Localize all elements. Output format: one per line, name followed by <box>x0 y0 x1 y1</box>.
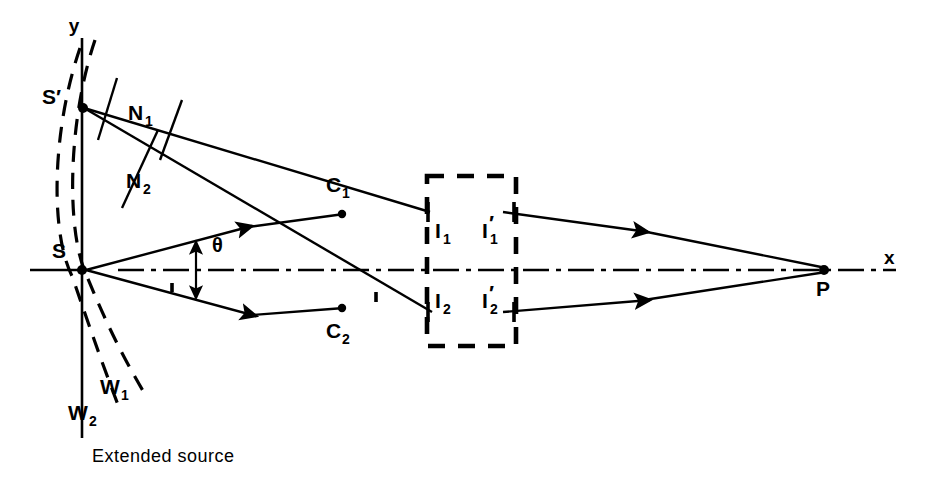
ray-sprime-to-i2 <box>84 108 432 312</box>
label-i1: I 1 <box>435 219 451 247</box>
optical-system-box <box>427 176 516 346</box>
ray-i1prime-to-p-seg1 <box>503 212 648 232</box>
label-c1-base: C <box>326 173 341 196</box>
label-n1-subscript: 1 <box>145 113 153 129</box>
label-i2-subscript: 2 <box>443 301 451 317</box>
label-c1-subscript: 1 <box>342 185 350 201</box>
ray-s-to-c2-seg2 <box>252 308 344 315</box>
label-i1-base: I <box>435 219 441 242</box>
label-i1-prime-base: I <box>482 219 488 242</box>
label-w2-base: W <box>68 401 88 424</box>
label-i2-prime-base: I <box>482 289 488 312</box>
ray-diagram-svg: y x S′ S N 1 N 2 θ C 1 C 2 I <box>0 0 935 494</box>
rays-from-s-prime <box>84 108 432 312</box>
normal-line-n1-outer <box>160 100 182 160</box>
label-c2: C 2 <box>326 319 350 347</box>
ray-i1prime-to-p-seg2 <box>642 231 826 268</box>
figure-caption: Extended source <box>92 446 235 466</box>
ray-s-to-c1-seg1 <box>86 226 252 270</box>
wavefront-arc-w1 <box>73 40 146 396</box>
axis-group <box>30 38 896 438</box>
label-w2-subscript: 2 <box>89 413 97 429</box>
dot-c1 <box>338 210 346 218</box>
label-c2-base: C <box>326 319 341 342</box>
ray-s-to-c1-seg2 <box>248 214 344 227</box>
label-i2: I 2 <box>435 289 451 317</box>
label-i2-base: I <box>435 289 441 312</box>
label-w1-base: W <box>100 375 120 398</box>
dot-s-prime <box>78 103 88 113</box>
optical-system-box-rect <box>427 176 516 346</box>
rays-from-s <box>86 214 344 316</box>
label-s: S <box>52 239 66 262</box>
ray-s-to-c2-seg1 <box>86 270 256 316</box>
ray-i2prime-to-p-seg1 <box>503 300 650 312</box>
dot-p <box>819 265 829 275</box>
dot-s <box>77 265 87 275</box>
label-theta: θ <box>212 234 223 256</box>
x-axis-label: x <box>884 247 895 268</box>
label-c1: C 1 <box>326 173 350 201</box>
label-i1-subscript: 1 <box>443 231 451 247</box>
figure-canvas: y x S′ S N 1 N 2 θ C 1 C 2 I <box>0 0 935 494</box>
normal-line-n1-inner <box>98 78 117 140</box>
label-c2-subscript: 2 <box>342 331 350 347</box>
label-i1-prime-subscript: 1 <box>490 231 498 247</box>
label-i1-prime: I ′ 1 <box>482 211 498 247</box>
label-n1-base: N <box>128 101 143 124</box>
wavefront-group <box>57 40 146 410</box>
label-i2-prime: I ′ 2 <box>482 281 498 317</box>
ray-i2prime-to-p-seg2 <box>644 272 826 300</box>
point-dots <box>77 103 829 312</box>
label-n2-base: N <box>126 169 141 192</box>
label-s-prime: S′ <box>42 85 61 108</box>
label-i2-prime-subscript: 2 <box>490 301 498 317</box>
dot-c2 <box>338 304 346 312</box>
label-w1-subscript: 1 <box>121 387 129 403</box>
label-p: P <box>816 277 830 300</box>
label-n2-subscript: 2 <box>143 181 151 197</box>
rays-to-convergence-point <box>503 212 826 312</box>
y-axis-label: y <box>69 15 80 36</box>
